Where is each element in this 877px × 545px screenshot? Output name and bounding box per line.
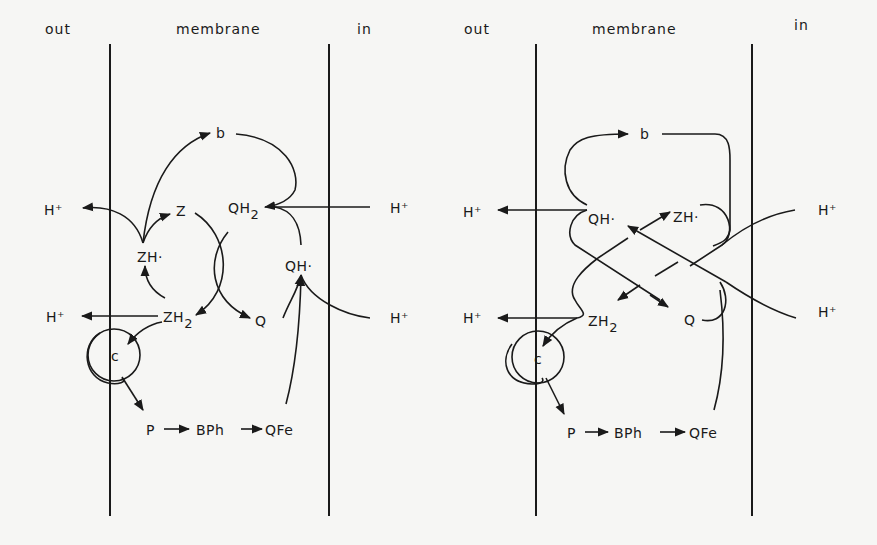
curve-hin-top (690, 210, 795, 266)
header-membrane-right: membrane (592, 22, 677, 36)
arrow-qh2-to-q (214, 232, 250, 318)
proton-out-top-right: H⁺ (463, 205, 482, 219)
species-b-right: b (640, 127, 649, 141)
arrow-zh2-to-zh (145, 266, 165, 298)
species-qh-radical-left: QH· (285, 259, 313, 273)
species-p-left: P (146, 423, 155, 437)
species-b-left: b (216, 126, 225, 140)
arrow-zh2-to-c (128, 322, 162, 344)
arrow-c-to-p (122, 377, 143, 410)
header-in-right: in (794, 18, 809, 32)
species-zh2-right: ZH2 (588, 314, 618, 334)
species-p-right: P (567, 426, 576, 440)
arrow-loop-to-b (565, 134, 628, 205)
cytochrome-c-left: c (111, 349, 119, 363)
proton-in-bottom-right: H⁺ (818, 305, 837, 319)
curve-bottom-cusp (572, 258, 598, 318)
curve-hin-bottom (726, 282, 796, 318)
curve-hin-to-qh (301, 275, 370, 318)
arrow-zh-to-hout (83, 207, 143, 243)
arrow-c-to-p-right (546, 378, 564, 414)
header-out-left: out (45, 22, 71, 36)
line-zh-diag-a (598, 238, 628, 258)
proton-out-bottom-left: H⁺ (46, 310, 65, 324)
species-qh2-left: QH2 (228, 201, 259, 221)
species-zh2-left: ZH2 (163, 310, 193, 330)
species-q-left: Q (255, 314, 267, 328)
header-out-right: out (464, 22, 490, 36)
arrow-b-to-qh2 (236, 134, 296, 207)
species-zh-radical-left: ZH· (137, 250, 163, 264)
proton-in-top-right: H⁺ (818, 203, 837, 217)
arrow-to-zh (640, 212, 670, 230)
species-qfe-left: QFe (265, 423, 293, 437)
diagram-lines (0, 0, 877, 545)
species-z-left: Z (176, 204, 186, 218)
arrow-to-qh (628, 226, 726, 282)
species-bph-left: BPh (196, 423, 224, 437)
arrow-z-to-zh2 (195, 213, 223, 315)
proton-out-bottom-right: H⁺ (463, 311, 482, 325)
proton-in-bottom-left: H⁺ (390, 311, 409, 325)
species-qh-radical-right: QH· (588, 212, 616, 226)
species-q-right: Q (684, 313, 696, 327)
proton-out-top-left: H⁺ (44, 203, 63, 217)
arrow-to-q (650, 295, 668, 307)
header-in-left: in (357, 22, 372, 36)
species-qfe-right: QFe (689, 426, 717, 440)
arrow-zh-to-b (143, 133, 210, 243)
arrow-q-to-qh (283, 275, 301, 318)
curve-qh2-to-qh (275, 207, 301, 245)
arrow-to-zh2 (618, 285, 640, 300)
line-zh2-diag-a (655, 262, 678, 276)
cytochrome-c-right: c (534, 352, 542, 366)
curve-b-down (662, 134, 730, 246)
species-bph-right: BPh (614, 426, 642, 440)
species-zh-radical-right: ZH· (673, 210, 699, 224)
header-membrane-left: membrane (176, 22, 261, 36)
proton-in-top-left: H⁺ (390, 201, 409, 215)
curve-qfe-up (714, 290, 723, 410)
